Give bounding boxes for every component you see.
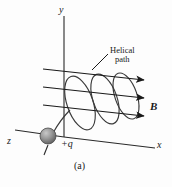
y-axis-label: y [59,5,63,16]
helical-path-annotation: Helicalpath [110,46,135,64]
field-line-3 [43,105,144,116]
x-axis [64,137,155,148]
x-axis-label: x [157,140,161,151]
helical-path-trajectory [53,70,144,134]
magnetic-field-label: B [150,101,157,113]
helix-entry-segment [53,110,70,133]
charge-label: +q [61,139,73,150]
helix-turn-1 [59,72,102,133]
helical-path-annotation-line2: path [110,55,135,64]
z-axis-tail [44,145,48,155]
field-line-1 [43,69,144,80]
physics-figure-helical-path: y x z B +q Helicalpath (a) [0,0,172,187]
field-line-2 [43,87,144,98]
particle-sphere [40,128,56,144]
charged-particle [40,128,56,144]
helix-turn-2 [85,71,125,128]
figure-caption: (a) [74,161,85,172]
helical-path-leader-line [92,54,108,70]
z-axis [15,130,64,137]
z-axis-label: z [7,136,11,147]
figure-vector-canvas [0,0,172,187]
